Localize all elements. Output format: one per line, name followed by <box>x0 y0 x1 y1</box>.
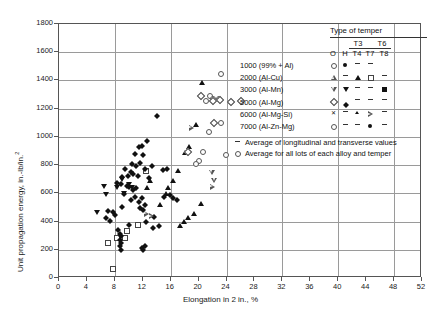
y-tick-label: 1200 <box>20 103 53 112</box>
gridline-horizontal <box>59 250 420 251</box>
legend-row-label: 3000 (Al-Mn) <box>240 85 283 94</box>
legend-row-label: 2000 (Al-Cu) <box>240 73 283 82</box>
marker-open-circle <box>331 63 337 69</box>
x-axis-tick <box>114 277 115 281</box>
marker-open-square <box>105 240 111 246</box>
marker-filled-triangle <box>144 185 150 190</box>
x-tick-label: 44 <box>353 282 377 291</box>
marker-dash <box>382 124 387 125</box>
y-axis-tick <box>54 23 58 24</box>
y-axis-tick <box>54 164 58 165</box>
marker-filled-diamond <box>140 204 146 210</box>
marker-filled-diamond <box>119 201 125 207</box>
x-axis-tick <box>281 277 282 281</box>
x-axis-tick <box>226 277 227 281</box>
y-tick-label: 200 <box>20 244 53 253</box>
legend-header-group: T6 <box>373 39 391 48</box>
marker-open-circle <box>193 161 199 167</box>
marker-filled-diamond <box>146 172 152 178</box>
marker-dash <box>382 75 387 76</box>
chart-root: Unit propagation energy, in.-lb/in.2 020… <box>0 0 441 315</box>
marker-filled-square <box>382 87 387 92</box>
marker-dash <box>368 63 373 64</box>
x-axis-tick <box>142 277 143 281</box>
gridline-vertical <box>227 24 228 276</box>
marker-filled-diamond <box>130 184 136 190</box>
marker-filled-diamond <box>149 160 155 166</box>
y-tick-label: 1600 <box>20 46 53 55</box>
y-axis-tick <box>54 136 58 137</box>
x-axis-tick <box>393 277 394 281</box>
marker-filled-down-triangle <box>103 192 109 197</box>
marker-filled-diamond <box>132 148 138 154</box>
marker-filled-diamond <box>128 194 134 200</box>
marker-filled-triangle <box>355 75 361 80</box>
y-tick-label: 1400 <box>20 74 53 83</box>
marker-dash <box>355 124 360 125</box>
marker-open-right-triangle <box>368 111 373 117</box>
marker-filled-triangle <box>170 178 176 183</box>
marker-filled-triangle <box>199 80 205 85</box>
y-axis-tick <box>54 108 58 109</box>
marker-open-right-triangle <box>210 184 215 190</box>
marker-filled-triangle <box>191 211 197 216</box>
x-axis-tick <box>421 277 422 281</box>
x-tick-label: 32 <box>269 282 293 291</box>
legend-row-label: 7000 (Al-Zn-Mg) <box>240 122 295 131</box>
legend-row-label: 6000 (Al-Mg-Si) <box>240 110 293 119</box>
y-axis-tick <box>54 249 58 250</box>
marker-filled-triangle <box>175 168 181 173</box>
marker-open-right-triangle <box>144 211 149 217</box>
marker-open-down-triangle <box>211 178 217 183</box>
x-tick-label: 48 <box>381 282 405 291</box>
y-tick-label: 600 <box>20 187 53 196</box>
gridline-horizontal <box>59 193 420 194</box>
marker-filled-circle <box>343 63 348 68</box>
x-axis-tick <box>86 277 87 281</box>
marker-filled-triangle <box>157 202 163 207</box>
marker-open-square <box>135 222 141 228</box>
marker-dash <box>382 99 387 100</box>
marker-filled-diamond <box>118 244 124 250</box>
x-tick-label: 40 <box>325 282 349 291</box>
marker-filled-diamond <box>174 194 180 200</box>
marker-dash <box>368 87 373 88</box>
gridline-horizontal <box>59 222 420 223</box>
marker-filled-diamond <box>140 149 146 155</box>
x-axis-tick <box>170 277 171 281</box>
marker-dash <box>343 75 348 76</box>
legend-title: Type of temper <box>330 26 382 35</box>
marker-dash <box>355 63 360 64</box>
marker-open-diamond <box>216 96 224 104</box>
y-axis-title-text: Unit propagation energy, in.-lb/in. <box>16 155 25 272</box>
x-tick-label: 12 <box>130 282 154 291</box>
y-axis-tick <box>54 221 58 222</box>
marker-dash <box>235 141 240 142</box>
marker-filled-diamond <box>112 209 118 215</box>
marker-filled-diamond <box>133 160 139 166</box>
marker-filled-diamond <box>107 215 113 221</box>
y-tick-label: 1000 <box>20 131 53 140</box>
x-tick-label: 28 <box>241 282 265 291</box>
marker-dash <box>343 111 348 112</box>
legend-rule-top <box>330 37 427 38</box>
marker-filled-diamond <box>119 171 125 177</box>
marker-open-circle <box>331 124 337 130</box>
marker-filled-down-triangle <box>343 87 349 92</box>
x-axis-tick <box>58 277 59 281</box>
marker-filled-diamond <box>135 170 141 176</box>
x-tick-label: 0 <box>46 282 70 291</box>
marker-filled-down-triangle <box>101 184 107 189</box>
marker-open-circle <box>218 71 224 77</box>
y-axis-title: Unit propagation energy, in.-lb/in.2 <box>14 152 25 272</box>
marker-open-circle <box>223 152 229 158</box>
x-tick-label: 52 <box>409 282 433 291</box>
marker-filled-diamond <box>121 188 127 194</box>
gridline-horizontal <box>59 165 420 166</box>
marker-open-diamond <box>227 98 235 106</box>
marker-filled-circle <box>368 124 373 129</box>
marker-filled-diamond <box>125 170 131 176</box>
x-axis-tick <box>309 277 310 281</box>
x-tick-label: 8 <box>102 282 126 291</box>
marker-open-circle <box>206 129 212 135</box>
